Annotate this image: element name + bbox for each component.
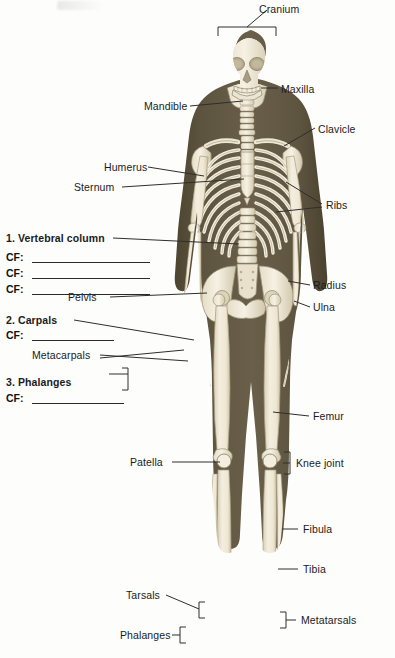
carpals-leader (74, 320, 194, 340)
label-femur: Femur (313, 411, 344, 422)
label-tarsals: Tarsals (126, 590, 160, 601)
label-fibula: Fibula (303, 524, 332, 535)
phalanges-foot-bracket (180, 627, 186, 643)
cf-label-vertebral-2: CF: (6, 268, 24, 279)
metacarpals-leader-2 (100, 350, 184, 358)
label-ulna: Ulna (313, 302, 335, 313)
cf-label-carpals: CF: (6, 330, 24, 341)
cf-blank-vertebral-2[interactable] (32, 278, 150, 279)
label-humerus: Humerus (104, 162, 147, 173)
worksheet-page: Cranium Maxilla Mandible Clavicle Humeru… (0, 0, 395, 658)
label-metacarpals: Metacarpals (32, 350, 90, 361)
metacarpals-leader-1 (100, 355, 188, 361)
label-patella: Patella (130, 457, 163, 468)
label-carpals: 2. Carpals (6, 315, 57, 326)
label-sternum: Sternum (74, 182, 114, 193)
label-maxilla: Maxilla (281, 84, 314, 95)
cf-blank-phalanges[interactable] (32, 403, 124, 404)
cf-blank-vertebral-1[interactable] (32, 262, 150, 263)
label-phalanges-foot: Phalanges (120, 630, 171, 641)
label-cranium: Cranium (259, 4, 299, 15)
label-mandible: Mandible (144, 101, 187, 112)
cf-label-vertebral-1: CF: (6, 252, 24, 263)
label-tibia: Tibia (303, 564, 326, 575)
skeleton-illustration (0, 0, 395, 658)
metatarsals-bracket (280, 612, 286, 628)
cf-blank-vertebral-3[interactable] (32, 294, 150, 295)
label-phalanges-hand: 3. Phalanges (6, 377, 71, 388)
label-vertebral-column: 1. Vertebral column (6, 233, 105, 244)
tarsals-bracket (199, 602, 205, 618)
label-radius: Radius (313, 280, 346, 291)
label-clavicle: Clavicle (318, 124, 356, 135)
label-knee-joint: Knee joint (296, 458, 344, 469)
phalanges-hand-bracket (122, 368, 128, 390)
cf-label-phalanges: CF: (6, 393, 24, 404)
label-ribs: Ribs (326, 200, 347, 211)
foot-bones (207, 600, 287, 641)
label-metatarsals: Metatarsals (301, 615, 356, 626)
tarsals-leader (166, 595, 199, 609)
cf-blank-carpals[interactable] (32, 340, 114, 341)
cf-label-vertebral-3: CF: (6, 284, 24, 295)
